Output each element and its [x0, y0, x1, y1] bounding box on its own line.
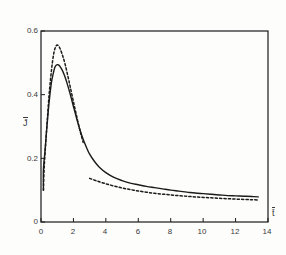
x-tick-label-3: 6 — [130, 228, 146, 236]
x-tick-label-6: 12 — [227, 228, 243, 236]
plot-area-svg — [0, 0, 286, 255]
x-tick-label-5: 10 — [194, 228, 210, 236]
y-tick-label-0: 0 — [20, 218, 38, 226]
y-axis-title: J̄ — [23, 117, 28, 128]
y-tick-label-1: 0.2 — [14, 155, 38, 163]
y-tick-label-3: 0.6 — [14, 27, 38, 35]
chart-figure: 0 0.2 0.4 0.6 0 2 4 6 8 10 12 14 J̄ t̄ — [0, 0, 286, 255]
x-axis-title: t̄ — [272, 207, 275, 218]
x-tick-label-7: 14 — [259, 228, 275, 236]
y-axis-title-text: J̄ — [23, 117, 28, 128]
x-tick-label-2: 4 — [97, 228, 113, 236]
x-axis-title-text: t̄ — [272, 207, 275, 218]
x-tick-label-4: 8 — [162, 228, 178, 236]
x-tick-label-0: 0 — [33, 228, 49, 236]
x-tick-label-1: 2 — [65, 228, 81, 236]
y-tick-label-2: 0.4 — [14, 91, 38, 99]
